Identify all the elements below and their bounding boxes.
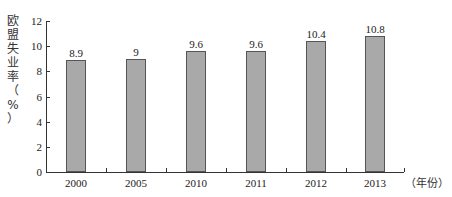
- x-tick: [286, 168, 287, 172]
- y-tick-label: 2: [28, 142, 42, 153]
- y-axis-title-char: ）: [6, 112, 20, 126]
- x-tick: [106, 168, 107, 172]
- y-axis-title-char: 业: [6, 56, 20, 70]
- bar-2005: [126, 59, 146, 172]
- x-tick: [404, 168, 405, 172]
- bar-2012: [306, 41, 326, 172]
- bar-value-label: 9: [116, 47, 156, 58]
- x-tick-label: 2010: [176, 178, 216, 189]
- y-tick-label: 12: [28, 16, 42, 27]
- y-axis-title-char: 率: [6, 70, 20, 84]
- y-tick: [46, 71, 50, 72]
- y-axis-title: 欧盟失业率（%）: [6, 14, 20, 126]
- y-axis-title-char: 欧: [6, 14, 20, 28]
- x-tick-label: 2005: [116, 178, 156, 189]
- bar-value-label: 8.9: [56, 48, 96, 59]
- bar-2010: [186, 51, 206, 172]
- y-tick: [46, 46, 50, 47]
- y-tick-label: 8: [28, 66, 42, 77]
- y-tick: [46, 172, 50, 173]
- x-axis-line: [46, 172, 404, 173]
- y-tick-label: 4: [28, 117, 42, 128]
- bar-value-label: 9.6: [176, 39, 216, 50]
- bar-chart: 欧盟失业率（%） （年份） 0246810128.92000920059.620…: [0, 0, 452, 197]
- bar-value-label: 10.4: [296, 29, 336, 40]
- x-tick-label: 2012: [296, 178, 336, 189]
- bar-value-label: 10.8: [355, 24, 395, 35]
- y-axis-title-char: %: [6, 98, 20, 112]
- x-tick-label: 2011: [236, 178, 276, 189]
- y-tick-label: 0: [28, 167, 42, 178]
- x-tick-label: 2000: [56, 178, 96, 189]
- x-tick: [166, 168, 167, 172]
- y-tick: [46, 122, 50, 123]
- x-tick: [346, 168, 347, 172]
- bar-2011: [246, 51, 266, 172]
- y-axis-title-char: 失: [6, 42, 20, 56]
- x-tick-label: 2013: [355, 178, 395, 189]
- y-axis-title-char: 盟: [6, 28, 20, 42]
- bar-2013: [365, 36, 385, 172]
- y-tick: [46, 97, 50, 98]
- bar-2000: [66, 60, 86, 172]
- x-tick: [226, 168, 227, 172]
- bar-value-label: 9.6: [236, 39, 276, 50]
- y-tick-label: 10: [28, 41, 42, 52]
- y-tick-label: 6: [28, 92, 42, 103]
- y-tick: [46, 21, 50, 22]
- x-axis-title: （年份）: [405, 178, 449, 189]
- y-axis-title-char: （: [6, 84, 20, 98]
- y-tick: [46, 147, 50, 148]
